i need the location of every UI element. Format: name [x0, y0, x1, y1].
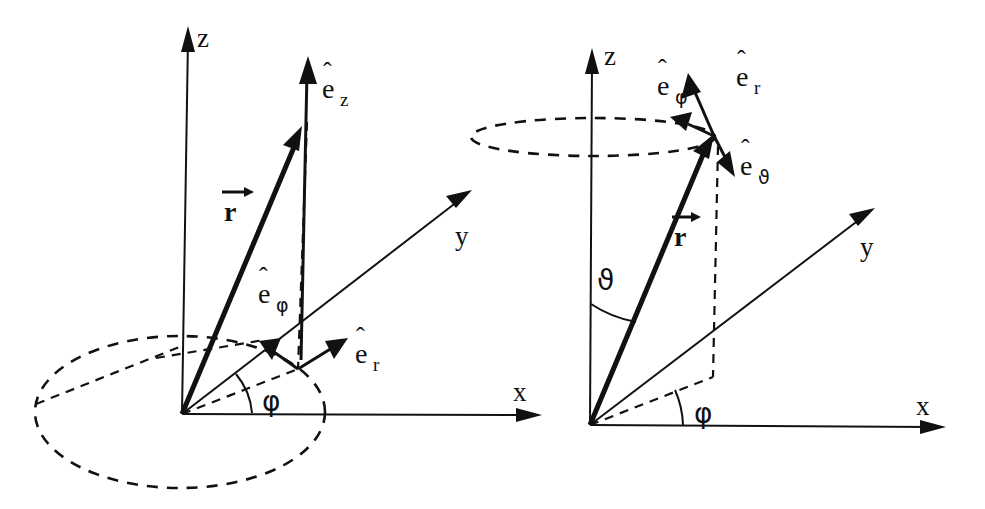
unit-vector-ephi-sub: φ	[675, 86, 688, 108]
position-vector-arrowhead	[283, 126, 302, 151]
unit-vector-er-line	[298, 348, 332, 369]
unit-vector-etheta-arrowhead	[717, 151, 735, 177]
position-vector-line	[182, 140, 297, 414]
unit-vector-ephi-label: ˆ e φ	[258, 262, 289, 316]
unit-vector-ephi-sub: φ	[276, 294, 289, 316]
cylindrical-circle-back-chord	[36, 346, 182, 404]
z-axis-label: z	[604, 41, 616, 71]
coordinate-systems-figure: z y x r	[0, 0, 985, 509]
unit-vector-ez-base: e	[322, 73, 334, 104]
unit-vector-ephi-base: e	[657, 70, 669, 101]
theta-angle-label: ϑ	[597, 264, 614, 297]
x-axis-line	[182, 414, 528, 415]
phi-angle-label: φ	[262, 385, 280, 418]
phi-angle-arc	[675, 390, 683, 425]
phi-angle-arc	[236, 374, 252, 413]
x-axis-arrowhead	[516, 408, 542, 422]
unit-vector-er-base: e	[736, 61, 748, 92]
unit-vector-ez-label: ˆ e z	[322, 57, 348, 110]
z-axis-line	[182, 38, 188, 414]
unit-vector-ez-line	[301, 72, 307, 360]
phi-angle-label: φ	[694, 397, 712, 430]
unit-vector-etheta-label: ˆ e ϑ	[740, 134, 770, 188]
z-axis-arrowhead	[585, 48, 599, 74]
z-axis-label: z	[197, 23, 209, 53]
z-axis-line	[590, 60, 592, 425]
theta-angle-arc	[591, 304, 636, 322]
cylindrical-coordinates-diagram: z y x r	[35, 23, 542, 488]
x-axis-label: x	[513, 377, 527, 407]
unit-vector-ez-sub: z	[340, 89, 348, 110]
unit-vector-er-sub: r	[754, 77, 761, 98]
unit-vector-er-label: ˆ e r	[736, 45, 761, 98]
unit-vector-etheta-line	[714, 136, 726, 159]
unit-vector-etheta-sub: ϑ	[758, 166, 770, 188]
x-axis-arrowhead	[920, 420, 946, 434]
unit-vector-ephi-base: e	[258, 278, 270, 309]
z-axis-arrowhead	[181, 26, 195, 52]
unit-vector-ez-arrowhead	[299, 56, 317, 84]
unit-vector-ephi-label: ˆ e φ	[657, 54, 688, 108]
x-axis-line	[590, 425, 931, 427]
vertical-projection-dashed	[713, 146, 718, 377]
unit-vector-etheta-base: e	[740, 150, 752, 181]
unit-vector-er-label: ˆ e r	[355, 322, 380, 375]
y-axis-line	[182, 198, 462, 414]
position-vector-label: r	[674, 221, 686, 252]
y-axis-label: y	[860, 232, 874, 262]
unit-vector-ephi-arrowhead	[670, 112, 692, 131]
x-axis-label: x	[916, 391, 930, 421]
unit-vector-er-base: e	[355, 338, 367, 369]
unit-vector-er-sub: r	[373, 354, 380, 375]
figure-canvas: z y x r	[0, 0, 985, 509]
position-vector-label: r	[224, 196, 236, 227]
y-axis-arrowhead	[446, 190, 472, 208]
unit-vector-ephi-line	[274, 352, 298, 369]
unit-vector-ephi-arrowhead	[259, 338, 281, 360]
spherical-coordinates-diagram: z y x r ˆ	[471, 41, 946, 434]
y-axis-label: y	[455, 221, 469, 251]
